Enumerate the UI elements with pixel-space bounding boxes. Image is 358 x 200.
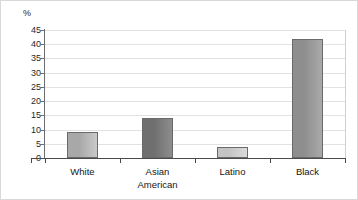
- x-axis-tick-mark: [270, 158, 271, 163]
- x-axis-category-label: White: [45, 165, 120, 178]
- x-axis-category-label: AsianAmerican: [120, 165, 195, 191]
- x-axis-category-label-line: Black: [270, 165, 345, 178]
- bar: [217, 147, 248, 158]
- x-axis-category-label-line: American: [120, 178, 195, 191]
- bar: [292, 39, 323, 158]
- y-axis-unit-label: %: [23, 8, 31, 18]
- bar-chart: % 051015202530354045 WhiteAsianAmericanL…: [0, 0, 358, 200]
- x-axis-category-label-line: Latino: [195, 165, 270, 178]
- plot-area: [45, 30, 345, 158]
- y-axis-tick-marks: [1, 30, 45, 158]
- x-axis-category-label-line: Asian: [120, 165, 195, 178]
- bar: [67, 132, 98, 158]
- plot-right-border: [345, 30, 346, 159]
- x-axis-category-label: Latino: [195, 165, 270, 178]
- bar: [142, 118, 173, 158]
- x-axis-category-label: Black: [270, 165, 345, 178]
- x-axis-tick-mark: [120, 158, 121, 163]
- x-axis-category-label-line: White: [45, 165, 120, 178]
- x-axis-tick-mark: [345, 158, 346, 163]
- x-axis-tick-mark: [31, 158, 32, 163]
- x-axis-tick-marks: [1, 158, 358, 164]
- x-axis-category-labels: WhiteAsianAmericanLatinoBlack: [45, 165, 345, 199]
- gridline: [45, 30, 345, 31]
- x-axis-tick-mark: [195, 158, 196, 163]
- x-axis-tick-mark: [45, 158, 46, 163]
